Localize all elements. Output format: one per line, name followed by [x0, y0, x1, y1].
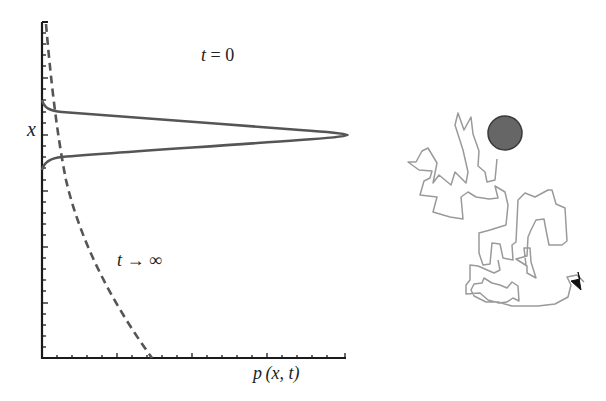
t-infinity-label: t → ∞	[117, 250, 162, 271]
t-zero-rest: = 0	[206, 45, 234, 65]
y-axis-label-text: x	[27, 118, 36, 140]
initial-distribution-curve	[42, 100, 347, 170]
y-axis-label: x	[27, 118, 36, 141]
figure-canvas	[0, 0, 606, 401]
stationary-distribution-curve	[46, 24, 152, 358]
t-infinity-rest: → ∞	[122, 250, 162, 270]
random-walk-path-lower	[466, 260, 584, 306]
plot-axes	[41, 22, 346, 359]
x-axis-label: p (x, t)	[253, 363, 300, 384]
x-axis-label-args: (x, t)	[266, 363, 300, 383]
start-marker-circle	[488, 116, 522, 150]
random-walk-path	[408, 113, 567, 278]
x-axis-label-p: p	[253, 363, 262, 383]
t-zero-label: t = 0	[201, 45, 234, 66]
